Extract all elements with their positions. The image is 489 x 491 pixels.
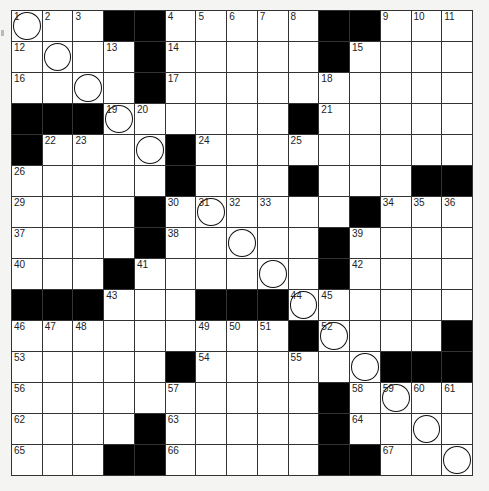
grid-cell[interactable] bbox=[73, 383, 103, 413]
grid-cell[interactable]: 14 bbox=[166, 42, 196, 72]
grid-cell[interactable] bbox=[319, 135, 349, 165]
grid-cell[interactable] bbox=[104, 166, 134, 196]
grid-cell[interactable] bbox=[258, 383, 288, 413]
grid-cell[interactable]: 35 bbox=[412, 197, 442, 227]
grid-cell[interactable] bbox=[135, 352, 165, 382]
grid-cell[interactable]: 34 bbox=[381, 197, 411, 227]
grid-cell[interactable] bbox=[43, 73, 73, 103]
grid-cell[interactable]: 61 bbox=[442, 383, 472, 413]
grid-cell[interactable] bbox=[73, 228, 103, 258]
grid-cell[interactable] bbox=[104, 414, 134, 444]
grid-cell[interactable] bbox=[73, 42, 103, 72]
grid-cell[interactable]: 26 bbox=[12, 166, 42, 196]
grid-cell[interactable]: 11 bbox=[442, 11, 472, 41]
grid-cell[interactable]: 9 bbox=[381, 11, 411, 41]
grid-cell[interactable] bbox=[289, 197, 319, 227]
grid-cell[interactable]: 60 bbox=[412, 383, 442, 413]
grid-cell[interactable] bbox=[381, 290, 411, 320]
grid-cell[interactable] bbox=[350, 321, 380, 351]
grid-cell[interactable] bbox=[412, 73, 442, 103]
grid-cell[interactable] bbox=[104, 197, 134, 227]
grid-cell[interactable] bbox=[412, 445, 442, 475]
grid-cell[interactable] bbox=[196, 166, 226, 196]
grid-cell[interactable] bbox=[381, 228, 411, 258]
grid-cell[interactable] bbox=[412, 321, 442, 351]
grid-cell[interactable] bbox=[350, 352, 380, 382]
grid-cell[interactable] bbox=[412, 135, 442, 165]
grid-cell[interactable] bbox=[319, 197, 349, 227]
grid-cell[interactable] bbox=[104, 228, 134, 258]
grid-cell[interactable]: 65 bbox=[12, 445, 42, 475]
grid-cell[interactable]: 58 bbox=[350, 383, 380, 413]
grid-cell[interactable] bbox=[227, 414, 257, 444]
grid-cell[interactable] bbox=[227, 259, 257, 289]
grid-cell[interactable] bbox=[135, 383, 165, 413]
grid-cell[interactable]: 62 bbox=[12, 414, 42, 444]
grid-cell[interactable] bbox=[73, 414, 103, 444]
grid-cell[interactable] bbox=[442, 135, 472, 165]
grid-cell[interactable] bbox=[227, 166, 257, 196]
grid-cell[interactable] bbox=[43, 228, 73, 258]
grid-cell[interactable] bbox=[442, 73, 472, 103]
grid-cell[interactable]: 29 bbox=[12, 197, 42, 227]
grid-cell[interactable]: 6 bbox=[227, 11, 257, 41]
grid-cell[interactable] bbox=[135, 321, 165, 351]
grid-cell[interactable] bbox=[381, 104, 411, 134]
grid-cell[interactable] bbox=[381, 259, 411, 289]
grid-cell[interactable]: 17 bbox=[166, 73, 196, 103]
grid-cell[interactable] bbox=[135, 135, 165, 165]
grid-cell[interactable]: 37 bbox=[12, 228, 42, 258]
grid-cell[interactable]: 24 bbox=[196, 135, 226, 165]
grid-cell[interactable] bbox=[289, 383, 319, 413]
grid-cell[interactable] bbox=[166, 104, 196, 134]
grid-cell[interactable]: 49 bbox=[196, 321, 226, 351]
grid-cell[interactable]: 23 bbox=[73, 135, 103, 165]
grid-cell[interactable] bbox=[289, 259, 319, 289]
grid-cell[interactable] bbox=[412, 290, 442, 320]
grid-cell[interactable]: 67 bbox=[381, 445, 411, 475]
grid-cell[interactable] bbox=[227, 73, 257, 103]
grid-cell[interactable] bbox=[442, 414, 472, 444]
grid-cell[interactable] bbox=[196, 259, 226, 289]
grid-cell[interactable]: 52 bbox=[319, 321, 349, 351]
grid-cell[interactable] bbox=[227, 42, 257, 72]
grid-cell[interactable]: 44 bbox=[289, 290, 319, 320]
grid-cell[interactable] bbox=[196, 228, 226, 258]
grid-cell[interactable] bbox=[196, 42, 226, 72]
grid-cell[interactable]: 31 bbox=[196, 197, 226, 227]
grid-cell[interactable] bbox=[73, 197, 103, 227]
grid-cell[interactable] bbox=[135, 166, 165, 196]
grid-cell[interactable] bbox=[196, 383, 226, 413]
grid-cell[interactable] bbox=[166, 321, 196, 351]
grid-cell[interactable] bbox=[381, 321, 411, 351]
grid-cell[interactable]: 4 bbox=[166, 11, 196, 41]
grid-cell[interactable] bbox=[258, 445, 288, 475]
grid-cell[interactable]: 5 bbox=[196, 11, 226, 41]
grid-cell[interactable] bbox=[289, 414, 319, 444]
grid-cell[interactable] bbox=[412, 259, 442, 289]
grid-cell[interactable]: 54 bbox=[196, 352, 226, 382]
grid-cell[interactable] bbox=[289, 445, 319, 475]
grid-cell[interactable]: 18 bbox=[319, 73, 349, 103]
grid-cell[interactable]: 64 bbox=[350, 414, 380, 444]
grid-cell[interactable]: 15 bbox=[350, 42, 380, 72]
grid-cell[interactable] bbox=[104, 135, 134, 165]
grid-cell[interactable]: 47 bbox=[43, 321, 73, 351]
grid-cell[interactable] bbox=[258, 42, 288, 72]
grid-cell[interactable] bbox=[381, 73, 411, 103]
grid-cell[interactable]: 46 bbox=[12, 321, 42, 351]
grid-cell[interactable] bbox=[350, 104, 380, 134]
grid-cell[interactable] bbox=[104, 352, 134, 382]
grid-cell[interactable] bbox=[43, 414, 73, 444]
grid-cell[interactable] bbox=[381, 166, 411, 196]
grid-cell[interactable] bbox=[442, 228, 472, 258]
grid-cell[interactable] bbox=[381, 414, 411, 444]
grid-cell[interactable]: 36 bbox=[442, 197, 472, 227]
grid-cell[interactable] bbox=[258, 135, 288, 165]
grid-cell[interactable] bbox=[73, 259, 103, 289]
grid-cell[interactable] bbox=[442, 104, 472, 134]
grid-cell[interactable] bbox=[43, 352, 73, 382]
grid-cell[interactable] bbox=[43, 42, 73, 72]
grid-cell[interactable]: 43 bbox=[104, 290, 134, 320]
grid-cell[interactable] bbox=[43, 445, 73, 475]
